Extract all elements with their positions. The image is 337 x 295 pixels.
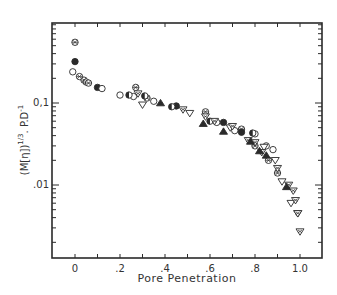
plot-frame xyxy=(52,23,322,258)
y-tick-label: 0,1 xyxy=(33,97,49,108)
data-point xyxy=(199,120,207,126)
x-tick-label: .2 xyxy=(115,263,125,274)
data-point xyxy=(271,158,279,164)
scatter-chart: 0.2.4.6.81.00,1.01 Pore Penetration (M[η… xyxy=(0,0,337,295)
data-point xyxy=(72,58,78,64)
data-point xyxy=(142,93,148,99)
x-tick-label: 1.0 xyxy=(292,263,308,274)
data-point xyxy=(250,130,256,136)
data-point xyxy=(99,85,105,91)
y-axis-label: (M[η])1/3. P.D-1 xyxy=(17,105,30,176)
tick-labels: 0.2.4.6.81.00,1.01 xyxy=(33,97,308,274)
data-point xyxy=(70,69,76,75)
data-point xyxy=(133,84,139,90)
x-tick-label: 0 xyxy=(72,263,78,274)
data-point xyxy=(238,129,244,135)
data-point xyxy=(117,92,123,98)
plot-border xyxy=(52,23,322,258)
data-point xyxy=(139,102,147,108)
x-tick-label: .8 xyxy=(250,263,260,274)
data-point xyxy=(270,146,276,152)
axis-ticks xyxy=(52,23,322,258)
data-point xyxy=(126,92,132,98)
data-point xyxy=(151,98,157,104)
data-point xyxy=(186,110,194,116)
data-point xyxy=(85,80,91,86)
data-point xyxy=(169,104,175,110)
data-points xyxy=(70,39,304,235)
data-point xyxy=(220,128,228,134)
y-tick-label: .01 xyxy=(33,179,49,190)
data-point xyxy=(296,229,304,235)
data-point xyxy=(72,39,78,45)
data-point xyxy=(157,99,165,105)
x-axis-label: Pore Penetration xyxy=(138,272,237,285)
data-point xyxy=(294,211,302,217)
